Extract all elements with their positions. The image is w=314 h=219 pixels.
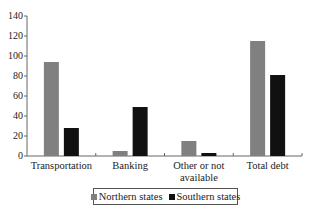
legend-label-northern: Northern states	[99, 191, 163, 202]
bar-southern	[64, 128, 79, 156]
bar-northern	[181, 141, 196, 156]
y-tick-label: 40	[1, 111, 23, 121]
y-tick-label: 0	[1, 151, 23, 161]
bar-southern	[201, 153, 216, 156]
bar-southern	[270, 75, 285, 156]
x-category-label: Total debt	[228, 160, 308, 172]
bar-northern	[113, 151, 128, 156]
legend-label-southern: Southern states	[177, 191, 241, 202]
bar-southern	[133, 107, 148, 156]
legend-swatch-northern	[91, 194, 97, 200]
legend: Northern states Southern states	[93, 188, 238, 205]
y-tick-label: 20	[1, 131, 23, 141]
bar-northern	[250, 41, 265, 156]
bar-northern	[44, 62, 59, 156]
y-tick-label: 120	[1, 31, 23, 41]
y-tick-label: 100	[1, 51, 23, 61]
y-tick-label: 140	[1, 11, 23, 21]
legend-item-northern: Northern states	[91, 191, 163, 202]
y-tick-label: 80	[1, 71, 23, 81]
legend-item-southern: Southern states	[169, 191, 241, 202]
y-tick-label: 60	[1, 91, 23, 101]
bar-chart: 020406080100120140 TransportationBanking…	[0, 0, 314, 219]
legend-swatch-southern	[169, 194, 175, 200]
plot-area	[0, 0, 314, 219]
